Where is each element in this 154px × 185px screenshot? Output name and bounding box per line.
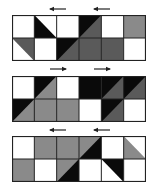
tile-r0-c0 [12,15,34,38]
tile-r0-c0 [12,136,34,159]
tile-r1-c3 [79,99,101,122]
tile-r0-c5 [124,76,146,99]
tile-r1-c1 [34,38,56,61]
arrow-left-icon [48,127,68,133]
tile-r1-c3 [79,159,101,182]
arrow-right-icon [92,66,112,72]
panel-2 [12,76,146,122]
tile-r0-c1 [34,15,56,38]
tile-r0-c3 [79,136,101,159]
tile-r1-c0 [12,99,34,122]
tile-r1-c2 [57,99,79,122]
panel-1 [12,15,146,61]
tile-r1-c0 [12,38,34,61]
tile-r1-c4 [101,38,123,61]
arrow-left-icon [48,6,68,12]
tile-r0-c5 [124,136,146,159]
tile-r1-c5 [124,99,146,122]
tile-r0-c2 [57,136,79,159]
tile-r0-c3 [79,15,101,38]
tile-r0-c4 [101,15,123,38]
tile-r1-c2 [57,38,79,61]
tile-r1-c3 [79,38,101,61]
tile-r1-c1 [34,99,56,122]
tile-r0-c3 [79,76,101,99]
tile-r0-c4 [101,136,123,159]
tile-r0-c1 [34,76,56,99]
tile-r0-c4 [101,76,123,99]
tile-r0-c5 [124,15,146,38]
tile-r1-c2 [57,159,79,182]
tile-r1-c5 [124,38,146,61]
tile-r1-c4 [101,99,123,122]
arrow-right-icon [48,66,68,72]
tile-r0-c2 [57,15,79,38]
arrow-left-icon [92,6,112,12]
panel-3 [12,136,146,182]
tile-r0-c0 [12,76,34,99]
tile-r1-c1 [34,159,56,182]
tile-r1-c5 [124,159,146,182]
tile-r1-c4 [101,159,123,182]
arrow-left-icon [92,127,112,133]
tile-r0-c1 [34,136,56,159]
tile-r0-c2 [57,76,79,99]
tile-r1-c0 [12,159,34,182]
